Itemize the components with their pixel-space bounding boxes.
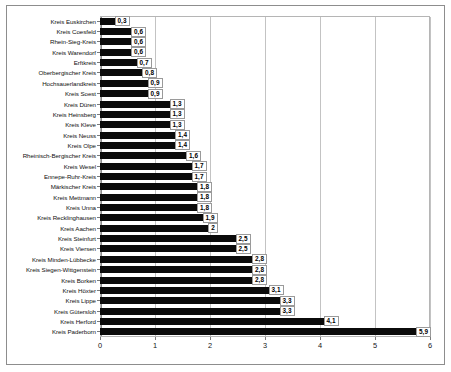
bar[interactable] — [100, 183, 199, 190]
bar[interactable] — [100, 308, 282, 315]
bar[interactable] — [100, 121, 172, 128]
category-label: Kreis Düren — [0, 101, 96, 108]
x-tick-label: 2 — [198, 341, 222, 350]
category-label: Kreis Coesfeld — [0, 28, 96, 35]
category-label: Kreis Warendorf — [0, 49, 96, 56]
x-tick-label: 4 — [308, 341, 332, 350]
category-label: Kreis Siegen-Wittgenstein — [0, 266, 96, 273]
bar-rows: Kreis Euskirchen0,3Kreis Coesfeld0,6Rhei… — [0, 16, 451, 337]
x-tick — [265, 337, 266, 340]
x-tick — [375, 337, 376, 340]
bar[interactable] — [100, 163, 194, 170]
bar[interactable] — [100, 225, 210, 232]
category-label: Ennepe-Ruhr-Kreis — [0, 173, 96, 180]
category-label: Kreis Höxter — [0, 287, 96, 294]
bar[interactable] — [100, 287, 271, 294]
category-label: Kreis Olpe — [0, 142, 96, 149]
category-label: Kreis Herford — [0, 318, 96, 325]
bar[interactable] — [100, 204, 199, 211]
category-label: Kreis Aachen — [0, 225, 96, 232]
bar[interactable] — [100, 69, 144, 76]
x-tick — [100, 337, 101, 340]
bar[interactable] — [100, 328, 425, 335]
bar[interactable] — [100, 90, 150, 97]
category-label: Kreis Gütersloh — [0, 308, 96, 315]
bar[interactable] — [100, 297, 282, 304]
bar[interactable] — [100, 235, 238, 242]
category-label: Rhein-Sieg-Kreis — [0, 38, 96, 45]
category-label: Kreis Paderborn — [0, 328, 96, 335]
category-label: Kreis Unna — [0, 204, 96, 211]
x-tick-label: 6 — [418, 341, 442, 350]
bar[interactable] — [100, 173, 194, 180]
bar[interactable] — [100, 59, 139, 66]
category-label: Hochsauerlandkreis — [0, 80, 96, 87]
category-label: Kreis Borken — [0, 277, 96, 284]
x-tick — [210, 337, 211, 340]
bar[interactable] — [100, 101, 172, 108]
bar[interactable] — [100, 277, 254, 284]
bar-value-label: 5,9 — [416, 327, 431, 337]
x-tick-label: 1 — [143, 341, 167, 350]
bar[interactable] — [100, 132, 177, 139]
bar[interactable] — [100, 266, 254, 273]
bar[interactable] — [100, 49, 133, 56]
bar[interactable] — [100, 142, 177, 149]
category-label: Kreis Kleve — [0, 121, 96, 128]
bar[interactable] — [100, 80, 150, 87]
category-label: Erftkreis — [0, 59, 96, 66]
x-tick-label: 5 — [363, 341, 387, 350]
x-tick — [320, 337, 321, 340]
category-label: Oberbergischer Kreis — [0, 69, 96, 76]
category-label: Kreis Lippe — [0, 297, 96, 304]
x-tick — [155, 337, 156, 340]
category-label: Kreis Minden-Lübbecke — [0, 256, 96, 263]
category-label: Kreis Euskirchen — [0, 18, 96, 25]
x-tick — [430, 337, 431, 340]
x-axis: 0123456 — [0, 337, 451, 359]
category-label: Kreis Steinfurt — [0, 235, 96, 242]
category-label: Rheinisch-Bergischer Kreis — [0, 152, 96, 159]
x-tick-label: 0 — [88, 341, 112, 350]
category-label: Kreis Viersen — [0, 245, 96, 252]
bar[interactable] — [100, 111, 172, 118]
category-label: Kreis Wesel — [0, 163, 96, 170]
category-label: Kreis Heinsberg — [0, 111, 96, 118]
bar[interactable] — [100, 38, 133, 45]
category-label: Märkischer Kreis — [0, 183, 96, 190]
bar-row: Kreis Paderborn5,9 — [0, 326, 451, 338]
bar[interactable] — [100, 28, 133, 35]
bar[interactable] — [100, 152, 188, 159]
bar[interactable] — [100, 245, 238, 252]
category-label: Kreis Neuss — [0, 132, 96, 139]
category-label: Kreis Recklinghausen — [0, 214, 96, 221]
bar[interactable] — [100, 256, 254, 263]
chart-figure: Kreis Euskirchen0,3Kreis Coesfeld0,6Rhei… — [0, 0, 451, 372]
category-label: Kreis Mettmann — [0, 194, 96, 201]
bar[interactable] — [100, 318, 326, 325]
bar[interactable] — [100, 214, 205, 221]
x-tick-label: 3 — [253, 341, 277, 350]
bar[interactable] — [100, 194, 199, 201]
category-label: Kreis Soest — [0, 90, 96, 97]
